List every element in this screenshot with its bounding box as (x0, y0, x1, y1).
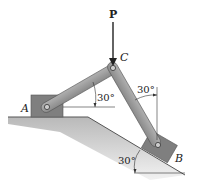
force-label: P (109, 8, 117, 21)
angle-cb-label: 30° (137, 84, 155, 95)
pin-a (44, 104, 49, 109)
angle-incline-label: 30° (118, 155, 136, 166)
force-p-arrow (109, 22, 117, 66)
angle-ac-label: 30° (97, 92, 115, 103)
block-a-label: A (20, 102, 29, 115)
linkage-diagram: P C A B 30° 30° 30° (0, 0, 201, 187)
pin-b (155, 142, 160, 147)
pin-c (110, 65, 115, 70)
block-b-label: B (174, 152, 183, 165)
pin-c-label: C (120, 51, 129, 64)
